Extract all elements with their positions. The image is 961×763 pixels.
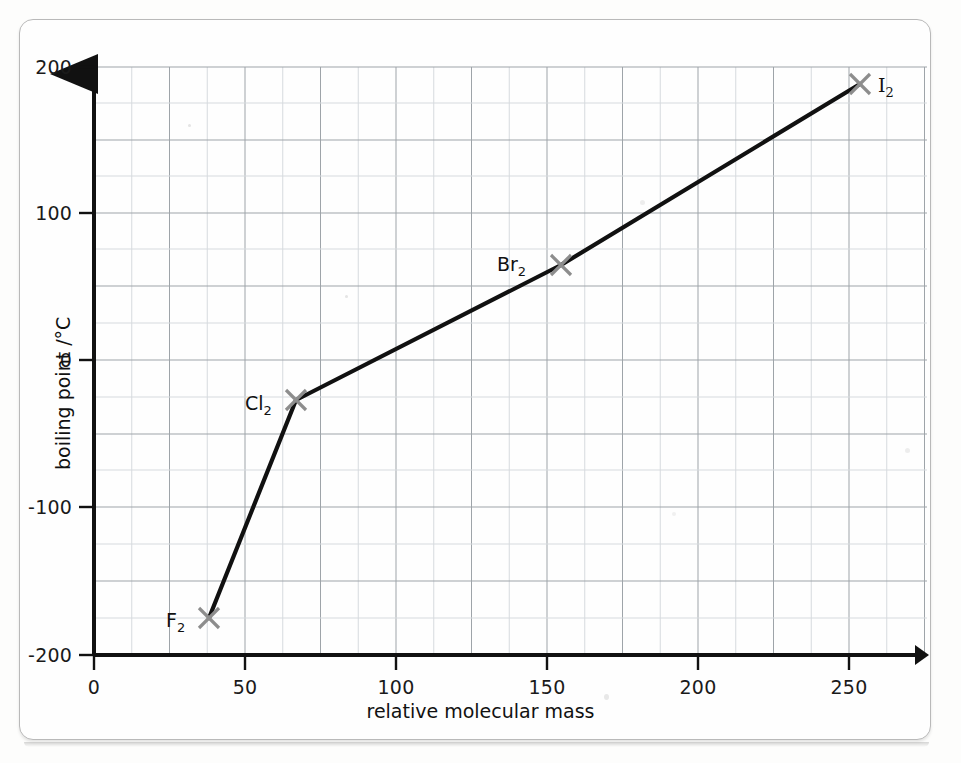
y-tick-label-200: 200 — [20, 56, 72, 78]
data-point-label-i2: I2 — [878, 74, 894, 100]
data-marker-br2 — [551, 255, 571, 275]
data-marker-cl2 — [286, 390, 306, 410]
f2-base: F — [166, 609, 177, 631]
y-axis-title: boiling point /°C — [52, 317, 74, 470]
page-background: 200 100 0 -100 -200 0 50 100 150 200 250… — [0, 0, 961, 763]
data-line-halogens — [209, 84, 860, 618]
chart-canvas — [0, 0, 961, 763]
y-axis-ticks — [79, 67, 94, 655]
i2-sub: 2 — [886, 85, 894, 100]
data-marker-i2 — [850, 74, 870, 94]
x-tick-label-0: 0 — [64, 676, 124, 698]
x-tick-label-250: 250 — [819, 676, 879, 698]
y-tick-label-100: 100 — [20, 202, 72, 224]
x-tick-label-150: 150 — [517, 676, 577, 698]
x-axis-title: relative molecular mass — [0, 700, 961, 722]
i2-base: I — [878, 74, 886, 96]
grid-horizontal-major — [94, 67, 927, 655]
x-tick-label-200: 200 — [668, 676, 728, 698]
f2-sub: 2 — [177, 620, 185, 635]
br2-sub: 2 — [518, 264, 526, 279]
x-tick-label-100: 100 — [366, 676, 426, 698]
cl2-sub: 2 — [264, 403, 272, 418]
y-tick-label-minus200: -200 — [12, 644, 72, 666]
x-tick-label-50: 50 — [215, 676, 275, 698]
y-tick-label-minus100: -100 — [12, 496, 72, 518]
x-axis-ticks — [94, 655, 849, 670]
data-point-label-cl2: Cl2 — [245, 392, 272, 418]
br2-base: Br — [497, 253, 518, 275]
x-axis-arrowhead — [915, 645, 929, 665]
data-point-label-br2: Br2 — [497, 253, 526, 279]
data-point-label-f2: F2 — [166, 609, 185, 635]
cl2-base: Cl — [245, 392, 264, 414]
